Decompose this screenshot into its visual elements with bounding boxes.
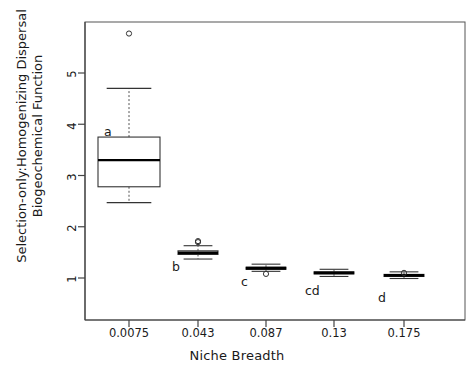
group-letter-d: d — [378, 290, 386, 305]
chart-canvas — [0, 0, 474, 381]
boxplot-figure: 1 2 3 4 5 0.0075 0.043 0.087 0.13 0.175 … — [0, 0, 474, 381]
x-tick-label-2: 0.043 — [168, 326, 228, 340]
y-axis-title-line1: Selection-only:Homogenizing Dispersal — [14, 9, 30, 263]
x-tick-label-3: 0.087 — [236, 326, 296, 340]
y-tick-label-3: 3 — [65, 167, 79, 187]
group-letter-c: c — [241, 274, 248, 289]
box-0.087 — [246, 264, 286, 276]
y-tick-label-5: 5 — [65, 64, 79, 84]
x-tick-label-1: 0.0075 — [99, 326, 159, 340]
y-axis-title: Selection-only:Homogenizing Dispersal Bi… — [14, 0, 46, 306]
box-0.175 — [384, 270, 424, 278]
y-axis-ticks — [78, 73, 85, 278]
x-axis-title: Niche Breadth — [0, 348, 474, 363]
box-0.043 — [178, 239, 218, 260]
x-tick-label-4: 0.13 — [304, 326, 364, 340]
x-tick-label-5: 0.175 — [374, 326, 434, 340]
boxplot-series — [98, 31, 424, 279]
group-letter-b: b — [172, 259, 180, 274]
y-axis-title-line2: Biogeochemical Function — [30, 55, 46, 218]
box-0.0075 — [98, 31, 160, 203]
group-letter-cd: cd — [305, 283, 320, 298]
group-letter-a: a — [104, 124, 112, 139]
box-0.13 — [314, 269, 354, 276]
y-tick-label-1: 1 — [65, 269, 79, 289]
y-tick-label-4: 4 — [65, 116, 79, 136]
y-tick-label-2: 2 — [65, 218, 79, 238]
